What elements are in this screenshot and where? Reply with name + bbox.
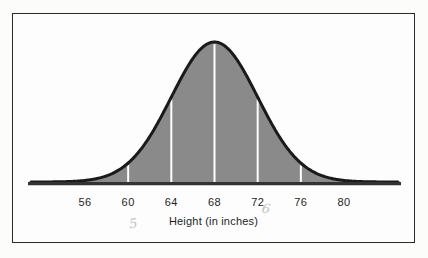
tick-label-56: 56 <box>78 196 91 208</box>
tick-label-68: 68 <box>208 196 221 208</box>
tick-label-80: 80 <box>337 196 350 208</box>
x-axis-title: Height (in inches) <box>12 215 415 227</box>
tick-label-64: 64 <box>165 196 178 208</box>
tick-label-72: 72 <box>251 196 264 208</box>
normal-distribution-chart: 56606468727680 Height (in inches) <box>12 13 415 243</box>
x-axis-tick-labels: 56606468727680 <box>12 196 415 216</box>
tick-label-60: 60 <box>122 196 135 208</box>
tick-gridlines-group <box>85 44 344 182</box>
figure-page: 56606468727680 Height (in inches) 5 6 <box>0 0 428 258</box>
tick-label-76: 76 <box>294 196 307 208</box>
